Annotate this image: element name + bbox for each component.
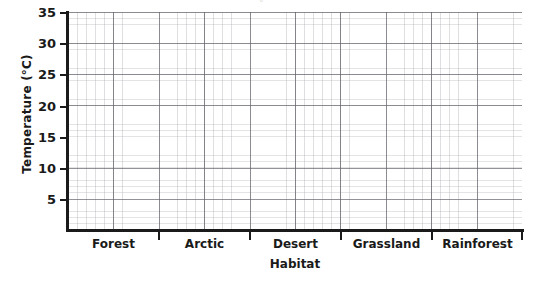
y-tick-mark-10 bbox=[60, 168, 68, 170]
y-tick-label-5: 5 bbox=[16, 193, 56, 206]
y-tick-mark-35 bbox=[60, 12, 68, 14]
bar-chart-figure: ° Temperature (°C) 35 30 25 20 15 10 5 F… bbox=[0, 0, 536, 284]
y-tick-label-35: 35 bbox=[16, 6, 56, 19]
grid-major-lines bbox=[68, 12, 522, 230]
y-tick-mark-25 bbox=[60, 74, 68, 76]
y-tick-mark-20 bbox=[60, 106, 68, 108]
x-category-label-grassland: Grassland bbox=[341, 236, 432, 252]
x-axis-title: Habitat bbox=[68, 256, 522, 272]
clipped-text-artifact: ° bbox=[248, 0, 274, 7]
y-tick-mark-5 bbox=[60, 199, 68, 201]
y-tick-label-20: 20 bbox=[16, 100, 56, 113]
plot-area bbox=[68, 12, 522, 230]
y-tick-label-25: 25 bbox=[16, 68, 56, 81]
y-tick-mark-30 bbox=[60, 43, 68, 45]
x-category-label-forest: Forest bbox=[68, 236, 159, 252]
x-category-label-rainforest: Rainforest bbox=[432, 236, 523, 252]
x-category-label-desert: Desert bbox=[250, 236, 341, 252]
y-tick-label-15: 15 bbox=[16, 131, 56, 144]
y-tick-mark-15 bbox=[60, 137, 68, 139]
x-category-label-arctic: Arctic bbox=[159, 236, 250, 252]
x-axis-spine bbox=[66, 229, 524, 232]
y-tick-label-30: 30 bbox=[16, 37, 56, 50]
y-tick-label-10: 10 bbox=[16, 162, 56, 175]
y-axis-title: Temperature (°C) bbox=[20, 24, 36, 204]
